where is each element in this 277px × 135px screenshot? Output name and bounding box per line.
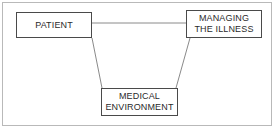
node-managing-illness[interactable]: MANAGING THE ILLNESS: [186, 10, 262, 38]
connector-managing-illness-to-medical-environment: [176, 38, 190, 88]
node-medical-environment[interactable]: MEDICAL ENVIRONMENT: [101, 88, 178, 116]
connector-patient-to-medical-environment: [92, 38, 102, 88]
node-patient[interactable]: PATIENT: [16, 12, 92, 38]
node-medical-environment-label: MEDICAL ENVIRONMENT: [105, 91, 173, 113]
diagram-root: PATIENT MANAGING THE ILLNESS MEDICAL ENV…: [0, 0, 277, 135]
node-patient-label: PATIENT: [35, 20, 73, 31]
node-managing-illness-label: MANAGING THE ILLNESS: [194, 13, 253, 35]
